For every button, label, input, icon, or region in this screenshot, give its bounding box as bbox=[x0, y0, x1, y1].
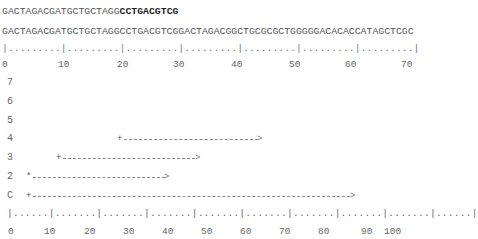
track-label: 6 bbox=[7, 96, 13, 107]
alignment-arrow bbox=[63, 158, 195, 159]
reference-sequence: GACTAGACGATGCTGCTAGGCCTGACGTCGGACTAGACGG… bbox=[2, 26, 414, 38]
tick-label: 0 bbox=[8, 226, 14, 237]
track-label: 7 bbox=[7, 77, 13, 88]
reference-ruler: |.........|.........|.........|.........… bbox=[2, 43, 419, 55]
tick-label: 30 bbox=[173, 59, 184, 70]
tick-label: 50 bbox=[289, 59, 300, 70]
alignment-arrow bbox=[33, 177, 165, 178]
tick-label: 10 bbox=[44, 226, 55, 237]
tick-label: 50 bbox=[201, 226, 212, 237]
bottom-ruler: |......|.......|.......|.......|.......|… bbox=[7, 208, 478, 219]
alignment-arrow bbox=[33, 196, 350, 197]
tick-label: 100 bbox=[384, 226, 401, 237]
track-label: C bbox=[7, 190, 13, 201]
tick-label: 20 bbox=[117, 59, 128, 70]
tick-label: 10 bbox=[58, 59, 69, 70]
arrowhead-icon: > bbox=[164, 172, 169, 182]
tick-label: 70 bbox=[279, 226, 290, 237]
arrowhead-icon: > bbox=[350, 191, 355, 201]
tick-label: 80 bbox=[318, 226, 329, 237]
track-label: 4 bbox=[7, 133, 13, 144]
tick-label: 60 bbox=[345, 59, 356, 70]
tick-label: 40 bbox=[162, 226, 173, 237]
arrowhead-icon: > bbox=[257, 134, 262, 144]
tick-label: 40 bbox=[231, 59, 242, 70]
start-marker: * bbox=[26, 172, 31, 182]
arrowhead-icon: > bbox=[195, 153, 200, 163]
tick-label: 60 bbox=[240, 226, 251, 237]
start-marker: + bbox=[26, 191, 31, 201]
tick-label: 70 bbox=[401, 59, 412, 70]
tick-label: 90 bbox=[361, 226, 372, 237]
track-label: 2 bbox=[7, 171, 13, 182]
query-sequence: GACTAGACGATGCTGCTAGGCCTGACGTCG bbox=[2, 6, 178, 18]
tick-label: 30 bbox=[123, 226, 134, 237]
alignment-arrow bbox=[124, 139, 258, 140]
start-marker: + bbox=[56, 153, 61, 163]
track-label: 5 bbox=[7, 115, 13, 126]
start-marker: + bbox=[117, 134, 122, 144]
tick-label: 20 bbox=[84, 226, 95, 237]
tick-label: 0 bbox=[2, 59, 8, 70]
query-sequence-plain: GACTAGACGATGCTGCTAGG bbox=[2, 6, 120, 17]
track-label: 3 bbox=[7, 152, 13, 163]
query-sequence-highlight: CCTGACGTCG bbox=[120, 6, 179, 17]
